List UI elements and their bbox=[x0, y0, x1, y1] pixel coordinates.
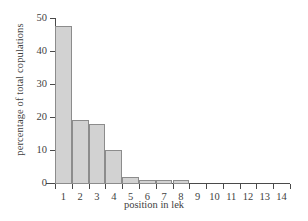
x-axis-tick bbox=[89, 184, 90, 189]
x-axis-tick bbox=[122, 184, 123, 189]
x-axis-tick bbox=[55, 184, 56, 189]
x-axis-tick bbox=[206, 184, 207, 189]
bar bbox=[173, 180, 190, 184]
x-axis-tick bbox=[189, 184, 190, 189]
x-axis-tick bbox=[156, 184, 157, 189]
x-axis-tick bbox=[290, 184, 291, 189]
plot-area: 01020304050 1234567891011121314 bbox=[55, 18, 290, 183]
x-axis-tick bbox=[223, 184, 224, 189]
y-axis-tick-label: 20 bbox=[37, 110, 48, 123]
bar-chart-figure: percentage of total copulations 01020304… bbox=[0, 0, 308, 221]
x-axis-tick bbox=[256, 184, 257, 189]
x-axis-tick bbox=[173, 184, 174, 189]
bar bbox=[89, 124, 106, 184]
y-axis-tick-label: 50 bbox=[37, 11, 48, 24]
y-axis-title: percentage of total copulations bbox=[14, 5, 25, 175]
x-axis-tick bbox=[240, 184, 241, 189]
y-axis-tick-label: 40 bbox=[37, 44, 48, 57]
x-axis-tick bbox=[273, 184, 274, 189]
y-axis-tick-label: 0 bbox=[42, 176, 47, 189]
bar-series bbox=[55, 18, 290, 184]
x-axis-title: position in lek bbox=[0, 199, 308, 210]
bar bbox=[55, 26, 72, 184]
bar bbox=[105, 150, 122, 184]
x-axis-tick bbox=[72, 184, 73, 189]
y-axis-tick-label: 10 bbox=[37, 143, 48, 156]
bar bbox=[72, 120, 89, 184]
x-axis-tick bbox=[139, 184, 140, 189]
x-axis-tick bbox=[105, 184, 106, 189]
bar bbox=[156, 180, 173, 184]
bar bbox=[122, 177, 139, 184]
y-axis-tick-label: 30 bbox=[37, 77, 48, 90]
bar bbox=[139, 180, 156, 184]
